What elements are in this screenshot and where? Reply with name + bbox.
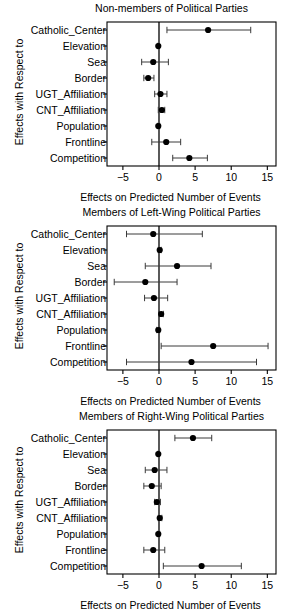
- data-row: [152, 139, 181, 145]
- data-row: [127, 231, 203, 237]
- plot-area: −5051015: [0, 204, 295, 408]
- data-row: [163, 563, 241, 569]
- x-tick-label: 0: [156, 375, 162, 387]
- data-row: [155, 327, 161, 333]
- x-tick-label: −5: [117, 375, 129, 387]
- data-row: [158, 311, 164, 317]
- data-row: [114, 279, 177, 285]
- data-row: [155, 531, 161, 537]
- plot-area: −5051015: [0, 408, 295, 612]
- data-row: [145, 295, 168, 301]
- x-axis-label: Effects on Predicted Number of Events: [0, 599, 295, 611]
- data-row: [155, 451, 161, 457]
- x-tick-label: 15: [261, 579, 273, 591]
- x-tick-label: 15: [261, 375, 273, 387]
- data-row: [155, 43, 161, 49]
- x-tick-label: 0: [156, 579, 162, 591]
- data-row: [175, 435, 212, 441]
- x-tick-label: −5: [117, 171, 129, 183]
- data-row: [144, 547, 165, 553]
- data-row: [173, 155, 208, 161]
- x-tick-label: 15: [261, 171, 273, 183]
- x-tick-label: 10: [225, 579, 237, 591]
- panel-right-wing: Members of Right-Wing Political Parties …: [0, 408, 295, 612]
- x-tick-label: 5: [192, 171, 198, 183]
- data-row: [155, 123, 161, 129]
- data-row: [167, 27, 251, 33]
- panel-left-wing: Members of Left-Wing Political Parties E…: [0, 204, 295, 408]
- x-tick-label: 10: [225, 375, 237, 387]
- x-axis-label: Effects on Predicted Number of Events: [0, 395, 295, 407]
- panel-non-members: Non-members of Political Parties Effects…: [0, 0, 295, 204]
- x-axis-label: Effects on Predicted Number of Events: [0, 191, 295, 203]
- x-tick-label: 0: [156, 171, 162, 183]
- data-row: [145, 263, 211, 269]
- data-row: [157, 515, 163, 521]
- data-row: [144, 75, 154, 81]
- plot-area: −5051015: [0, 0, 295, 204]
- data-row: [161, 343, 268, 349]
- data-row: [142, 59, 169, 65]
- data-row: [145, 467, 167, 473]
- data-row: [127, 359, 257, 365]
- data-row: [157, 247, 163, 253]
- forest-plot-figure: Non-members of Political Parties Effects…: [0, 0, 295, 613]
- x-tick-label: 5: [192, 375, 198, 387]
- x-tick-label: 10: [225, 171, 237, 183]
- x-tick-label: −5: [117, 579, 129, 591]
- data-row: [155, 91, 167, 97]
- x-tick-label: 5: [192, 579, 198, 591]
